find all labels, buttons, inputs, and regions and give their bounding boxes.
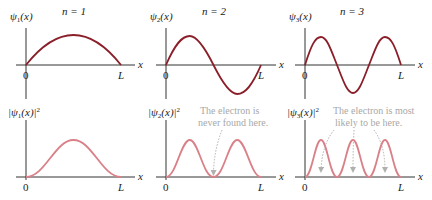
x-label: x <box>137 58 143 70</box>
L-label: L <box>117 69 124 81</box>
x-label: x <box>417 170 423 182</box>
node-arrow <box>214 130 223 173</box>
peak-note-line2: likely to be here. <box>335 117 402 128</box>
prob3-label: |ψ3(x)|2 <box>287 106 320 120</box>
prob3-panel: |ψ3(x)|2 0 L x The electron is most like… <box>287 105 423 193</box>
n1-label: n = 1 <box>62 5 86 17</box>
psi2-panel: ψ2(x) n = 2 0 L x <box>150 5 284 99</box>
psi1-label: ψ1(x) <box>10 10 33 24</box>
node-note-line2: never found here. <box>198 117 268 128</box>
peak-arrow-1 <box>321 130 334 170</box>
prob2-label: |ψ2(x)|2 <box>148 106 181 120</box>
psi2-label: ψ2(x) <box>150 10 173 24</box>
n3-label: n = 3 <box>340 5 364 17</box>
x-label: x <box>278 170 284 182</box>
psi3-panel: ψ3(x) n = 3 0 L x <box>289 5 423 99</box>
node-note-line1: The electron is <box>200 105 260 116</box>
origin-label: 0 <box>302 181 308 193</box>
psi1-panel: ψ1(x) n = 1 0 L x <box>10 5 143 99</box>
prob1-panel: |ψ1(x)|2 0 L x <box>8 106 143 193</box>
peak-arrow-2 <box>353 130 354 170</box>
x-label: x <box>278 58 284 70</box>
L-label: L <box>257 69 264 81</box>
psi3-label: ψ3(x) <box>289 10 312 24</box>
x-label: x <box>417 58 423 70</box>
x-label: x <box>137 170 143 182</box>
L-label: L <box>117 181 124 193</box>
origin-label: 0 <box>23 181 29 193</box>
n2-label: n = 2 <box>202 5 226 17</box>
prob1-curve <box>26 140 121 177</box>
origin-label: 0 <box>163 181 169 193</box>
origin-label: 0 <box>302 69 308 81</box>
origin-label: 0 <box>23 69 29 81</box>
L-label: L <box>397 181 404 193</box>
psi1-curve <box>26 35 121 65</box>
peak-note-line1: The electron is most <box>333 105 415 116</box>
prob1-label: |ψ1(x)|2 <box>8 106 41 120</box>
L-label: L <box>397 69 404 81</box>
L-label: L <box>257 181 264 193</box>
origin-label: 0 <box>163 69 169 81</box>
prob2-panel: |ψ2(x)|2 0 L x The electron is never fou… <box>148 105 284 193</box>
wavefunction-diagram: ψ1(x) n = 1 0 L x ψ2(x) n = 2 0 L x ψ3(x… <box>0 0 432 200</box>
